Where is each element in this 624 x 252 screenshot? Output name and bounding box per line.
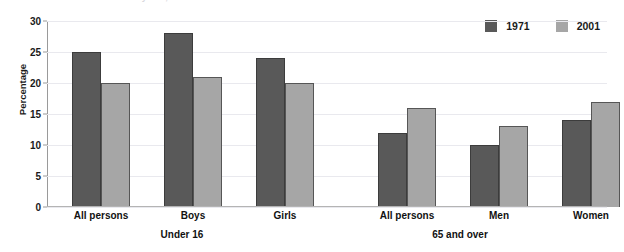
y-tick-mark [43,145,47,146]
category-label: All persons [367,210,447,226]
bar-2001-all-persons [101,83,130,207]
category-labels: All personsBoysGirlsAll personsMenWomen [48,210,607,226]
bar-1971-men [470,145,499,207]
bar-1971-boys [164,33,193,207]
bar-1971-all-persons [72,52,101,207]
y-tick-label: 0 [35,202,41,213]
bar-2001-girls [285,83,314,207]
category-label-group: All personsBoysGirls [61,210,325,226]
y-tick-label: 10 [30,140,41,151]
category-label: Men [459,210,539,226]
y-tick-mark [43,52,47,53]
group-label-under-16: Under 16 [122,229,242,240]
y-tick-mark [43,21,47,22]
chart-title-clipped: 65 and over: by sex, 1971 and 2001 [78,0,378,2]
y-tick-label: 15 [30,109,41,120]
supergroup-under-16 [61,21,325,207]
bar-1971-all-persons [378,133,407,207]
bar-group [551,21,624,207]
category-label: All persons [61,210,141,226]
x-axis-line [47,206,607,207]
category-label-group: All personsMenWomen [367,210,624,226]
bar-1971-women [562,120,591,207]
bar-1971-girls [256,58,285,207]
y-tick-mark [43,83,47,84]
group-label-65-and-over: 65 and over [400,229,520,240]
bar-2001-all-persons [407,108,436,207]
gridline [47,207,607,208]
y-axis-title: Percentage [17,50,28,130]
bar-2001-men [499,126,528,207]
bar-group [367,21,447,207]
bar-group [245,21,325,207]
supergroup-65-and-over [367,21,624,207]
bar-groups [48,21,607,207]
bar-group [61,21,141,207]
bar-group [153,21,233,207]
bar-group [459,21,539,207]
y-tick-mark [43,176,47,177]
plot-area: 051015202530 [47,21,607,207]
bar-2001-boys [193,77,222,207]
y-tick-label: 30 [30,16,41,27]
y-tick-mark [43,114,47,115]
category-label: Women [551,210,624,226]
y-tick-label: 20 [30,78,41,89]
category-label: Boys [153,210,233,226]
y-tick-label: 25 [30,47,41,58]
category-label: Girls [245,210,325,226]
bar-2001-women [591,102,620,207]
y-tick-label: 5 [35,171,41,182]
